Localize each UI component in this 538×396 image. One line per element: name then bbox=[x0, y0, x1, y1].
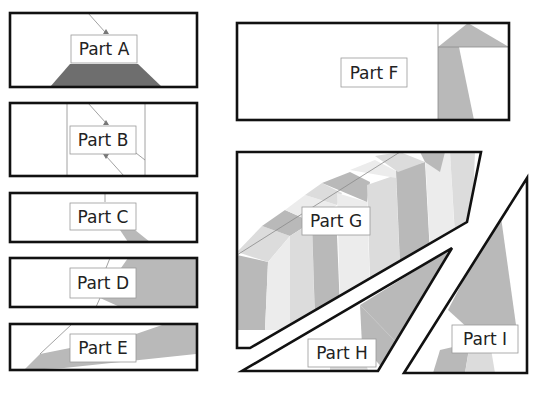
part-b-seam-top bbox=[88, 103, 106, 123]
part-e: Part E bbox=[10, 324, 197, 370]
part-c: Part C bbox=[10, 193, 197, 242]
part-c-fill bbox=[120, 230, 150, 242]
part-e-label: Part E bbox=[78, 338, 128, 358]
part-a-dark-trapezoid bbox=[50, 64, 162, 87]
part-b-seam-bottom bbox=[106, 156, 124, 176]
part-f-vertical-strip bbox=[438, 47, 474, 120]
part-d-seam-bottom bbox=[96, 298, 100, 307]
part-f-label: Part F bbox=[350, 63, 399, 83]
part-f: Part F bbox=[237, 23, 509, 120]
part-g-strip bbox=[237, 255, 268, 330]
part-g: Part G bbox=[237, 152, 481, 348]
part-c-label: Part C bbox=[78, 207, 129, 227]
part-d: Part D bbox=[10, 258, 197, 307]
part-a: Part A bbox=[10, 13, 197, 87]
part-b: Part B bbox=[10, 103, 197, 176]
part-a-marker bbox=[103, 29, 109, 34]
part-b-label: Part B bbox=[78, 130, 129, 150]
part-a-seam bbox=[88, 13, 105, 32]
part-a-label: Part A bbox=[79, 39, 130, 59]
part-g-strip bbox=[396, 162, 430, 265]
part-d-label: Part D bbox=[77, 273, 129, 293]
part-g-label: Part G bbox=[310, 211, 362, 231]
part-d-seam-top bbox=[106, 258, 110, 268]
part-f-top-triangle bbox=[438, 23, 509, 47]
part-i-label: Part I bbox=[463, 329, 507, 349]
part-b-seam-corner bbox=[136, 153, 145, 160]
part-h-label: Part H bbox=[316, 343, 368, 363]
parts-diagram: Part A Part B Part C Part D P bbox=[0, 0, 538, 396]
